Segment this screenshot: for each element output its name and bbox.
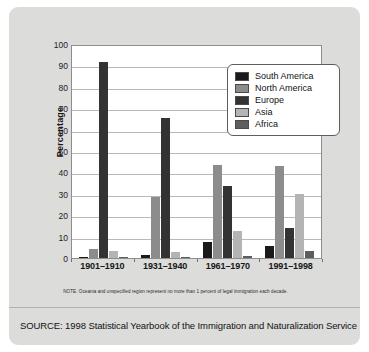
bar[interactable] — [99, 62, 108, 258]
bar[interactable] — [109, 251, 118, 258]
x-axis-tick-labels: 1901–19101931–19401961–19701991–1998 — [71, 261, 322, 271]
chart-source: SOURCE: 1998 Statistical Yearbook of the… — [20, 320, 350, 331]
legend-swatch — [235, 96, 249, 105]
bar-group — [72, 46, 134, 258]
y-tick-label: 10 — [44, 233, 68, 242]
legend-item[interactable]: Africa — [235, 118, 333, 130]
legend-item[interactable]: North America — [235, 82, 333, 94]
plot-area: South AmericaNorth AmericaEuropeAsiaAfri… — [71, 45, 322, 259]
bar[interactable] — [275, 166, 284, 258]
bar[interactable] — [213, 165, 222, 258]
legend-swatch — [235, 108, 249, 117]
legend-label: Europe — [255, 96, 284, 105]
bar[interactable] — [203, 242, 212, 258]
bar[interactable] — [181, 257, 190, 258]
y-tick-label: 50 — [44, 148, 68, 157]
bar[interactable] — [265, 246, 274, 258]
bar[interactable] — [243, 256, 252, 258]
legend-label: Asia — [255, 108, 273, 117]
chart-page: Percentage 1009080706050403020100 South … — [0, 0, 369, 352]
bar[interactable] — [141, 255, 150, 258]
legend-label: Africa — [255, 120, 278, 129]
bar[interactable] — [223, 186, 232, 258]
legend-item[interactable]: Asia — [235, 106, 333, 118]
bar-group — [134, 46, 196, 258]
y-tick-label: 40 — [44, 169, 68, 178]
y-tick-label: 90 — [44, 62, 68, 71]
y-tick-label: 100 — [44, 41, 68, 50]
y-tick-label: 30 — [44, 191, 68, 200]
x-tick-label: 1991–1998 — [259, 261, 322, 271]
bar[interactable] — [233, 231, 242, 258]
bar[interactable] — [119, 257, 128, 258]
y-tick-label: 80 — [44, 84, 68, 93]
x-tick-label: 1961–1970 — [197, 261, 260, 271]
bar[interactable] — [171, 252, 180, 258]
x-tick-label: 1931–1940 — [134, 261, 197, 271]
bar[interactable] — [305, 251, 314, 258]
legend-swatch — [235, 84, 249, 93]
legend-label: North America — [255, 84, 312, 93]
bar[interactable] — [161, 118, 170, 258]
bar[interactable] — [89, 249, 98, 258]
legend-label: South America — [255, 72, 314, 81]
y-tick-label: 0 — [44, 255, 68, 264]
legend-swatch — [235, 120, 249, 129]
legend-swatch — [235, 72, 249, 81]
legend-item[interactable]: South America — [235, 70, 333, 82]
y-tick-label: 20 — [44, 212, 68, 221]
bar[interactable] — [151, 197, 160, 258]
bar[interactable] — [285, 228, 294, 258]
legend: South AmericaNorth AmericaEuropeAsiaAfri… — [227, 64, 340, 136]
bar[interactable] — [79, 257, 88, 258]
y-tick-label: 70 — [44, 105, 68, 114]
x-tick-label: 1901–1910 — [71, 261, 134, 271]
y-tick-label: 60 — [44, 126, 68, 135]
source-divider — [9, 307, 360, 308]
chart-note: NOTE: Oceania and unspecified region rep… — [24, 289, 327, 294]
bar-chart: Percentage 1009080706050403020100 South … — [24, 35, 327, 287]
legend-item[interactable]: Europe — [235, 94, 333, 106]
x-tick-mark — [322, 259, 323, 262]
bar[interactable] — [295, 194, 304, 258]
y-axis-tick-labels: 1009080706050403020100 — [44, 45, 68, 259]
